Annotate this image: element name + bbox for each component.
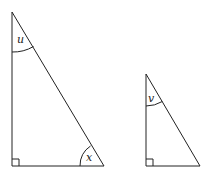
right-angle-marker-large xyxy=(12,159,19,166)
angle-v-label: v xyxy=(148,92,155,105)
large-triangle-outline xyxy=(12,12,104,166)
small-triangle-outline xyxy=(146,74,200,166)
right-angle-marker-small xyxy=(146,159,153,166)
diagram-canvas: u x v xyxy=(0,0,208,174)
angle-x-label: x xyxy=(86,151,93,164)
small-triangle xyxy=(146,74,200,166)
angle-u-arc xyxy=(12,47,34,53)
large-triangle xyxy=(12,12,104,166)
angle-u-label: u xyxy=(17,33,24,46)
